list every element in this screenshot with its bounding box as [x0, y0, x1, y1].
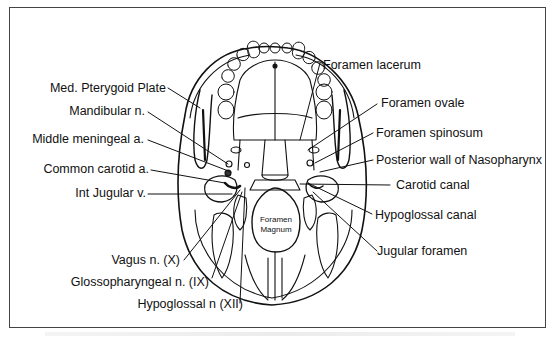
label-carotid-canal: Carotid canal: [396, 178, 470, 192]
caption-strip: [45, 332, 515, 336]
leader-lines-left: [148, 88, 245, 303]
label-hypoglossal-n: Hypoglossal n (XII): [137, 297, 243, 311]
label-hypoglossal-canal: Hypoglossal canal: [375, 208, 476, 222]
label-posterior-wall-nasopharynx: Posterior wall of Nasopharynx: [376, 153, 542, 167]
label-common-carotid-a: Common carotid a.: [43, 162, 149, 176]
label-foramen-spinosum: Foramen spinosum: [376, 126, 483, 140]
foramen-spinosum-left: [226, 161, 232, 167]
label-foramen-magnum-line2: Magnum: [250, 225, 302, 235]
label-jugular-foramen: Jugular foramen: [377, 244, 467, 258]
skull-outline: [178, 47, 366, 306]
label-int-jugular-v: Int Jugular v.: [75, 186, 146, 200]
label-mandibular-n: Mandibular n.: [69, 104, 145, 118]
label-foramen-ovale: Foramen ovale: [381, 96, 464, 110]
label-glossopharyngeal-n: Glossopharyngeal n. (IX): [71, 275, 209, 289]
label-foramen-lacerum: Foramen lacerum: [323, 58, 421, 72]
label-vagus-n: Vagus n. (X): [111, 253, 180, 267]
label-foramen-magnum: Foramen Magnum: [250, 215, 302, 235]
label-middle-meningeal-a: Middle meningeal a.: [32, 132, 144, 146]
zygomatic-arch-right: [332, 90, 350, 168]
label-foramen-magnum-line1: Foramen: [250, 215, 302, 225]
label-med-pterygoid-plate: Med. Pterygoid Plate: [50, 81, 166, 95]
foramen-spinosum-right: [307, 160, 313, 166]
